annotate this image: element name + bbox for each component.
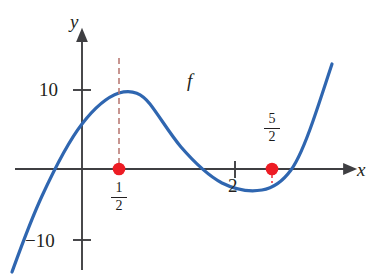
fraction-denominator: 2	[264, 130, 280, 145]
curve-label-f: f	[187, 71, 192, 90]
curve-f	[12, 64, 332, 272]
y-tick-label-10: 10	[39, 80, 58, 99]
graph-figure	[0, 0, 382, 279]
fraction-numerator: 5	[264, 112, 280, 127]
y-axis-label: y	[70, 12, 78, 31]
point-marker-half[interactable]	[113, 163, 126, 176]
fraction-numerator: 1	[111, 181, 127, 196]
fraction-denominator: 2	[111, 199, 127, 214]
y-tick-label-negative-10: −10	[25, 231, 55, 250]
point-label-one-half: 1 2	[111, 181, 127, 213]
point-marker-five-halves[interactable]	[266, 163, 279, 176]
x-axis-label: x	[357, 160, 365, 179]
point-label-five-halves: 5 2	[264, 112, 280, 144]
x-tick-label-2: 2	[228, 176, 238, 195]
